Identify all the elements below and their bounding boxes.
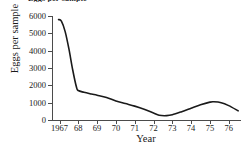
y-tick-label: 6000 — [29, 12, 46, 21]
y-tick-label: 1000 — [29, 98, 46, 107]
series-line-eggs-per-sample — [52, 16, 240, 120]
y-axis-label: Eggs per sample — [9, 0, 20, 94]
plot-area: 0100020003000400050006000 19676869707172… — [52, 16, 240, 120]
y-tick-label: 4000 — [29, 46, 46, 55]
x-tick-label: 68 — [74, 124, 83, 133]
chart-title-clipped: Eggs per sample — [28, 0, 228, 2]
chart-figure: Eggs per sample Eggs per sample Year 010… — [0, 0, 250, 150]
x-axis-line — [52, 120, 241, 121]
x-tick-label: 75 — [206, 124, 215, 133]
x-tick-label: 70 — [112, 124, 121, 133]
x-tick-label: 74 — [187, 124, 196, 133]
y-tick-label: 3000 — [29, 64, 46, 73]
x-tick-label: 72 — [149, 124, 158, 133]
y-tick-label: 5000 — [29, 29, 46, 38]
x-tick-label: 76 — [224, 124, 233, 133]
x-tick-label: 69 — [93, 124, 102, 133]
x-tick-label: 73 — [168, 124, 177, 133]
y-tick — [48, 120, 52, 121]
x-axis-label: Year — [52, 133, 240, 144]
y-tick-label: 0 — [42, 116, 46, 125]
x-tick-label: 1967 — [51, 124, 68, 133]
y-tick-label: 2000 — [29, 81, 46, 90]
x-tick-label: 71 — [130, 124, 139, 133]
